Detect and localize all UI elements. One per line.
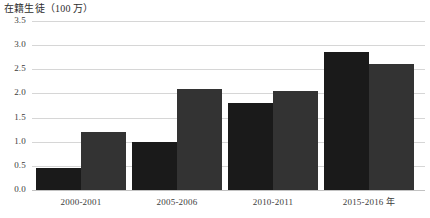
bars-layer — [0, 21, 430, 190]
x-axis-category-label: 2000-2001 — [26, 196, 136, 208]
bar — [81, 132, 126, 190]
axis-baseline — [32, 190, 425, 191]
x-axis-category-label: 2010-2011 — [218, 196, 328, 208]
bar — [177, 89, 222, 190]
bar — [36, 168, 81, 190]
x-axis-category-label: 2015-2016 年 — [314, 196, 424, 208]
bar — [228, 103, 273, 190]
x-axis-category-label: 2005-2006 — [122, 196, 232, 208]
chart-title: 在籍生徒（100 万） — [4, 2, 94, 15]
bar — [273, 91, 318, 190]
bar — [369, 64, 414, 190]
bar-chart: 在籍生徒（100 万） 3.53.02.52.01.51.00.50.0 200… — [0, 0, 430, 218]
bar — [324, 52, 369, 190]
bar — [132, 142, 177, 190]
category-axis: 2000-20012005-20062010-20112015-2016 年 — [0, 196, 430, 210]
